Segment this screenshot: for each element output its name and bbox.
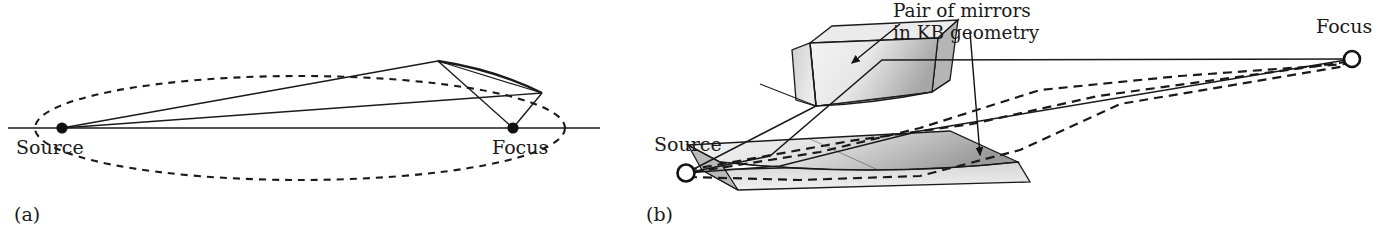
source-point-marker xyxy=(56,122,67,133)
panel-a-diagram xyxy=(0,0,620,247)
panel-a-source-label: Source xyxy=(16,137,84,158)
focus-point-marker xyxy=(507,122,518,133)
panel-b-source-label: Source xyxy=(654,134,722,155)
ray-middle xyxy=(62,93,542,128)
source-point-marker xyxy=(678,165,695,182)
upper-mirror-main-face xyxy=(810,38,938,106)
ray-middle-reflected xyxy=(513,93,542,128)
panel-a-tag: (a) xyxy=(14,203,40,225)
kb-annotation-line-2: in KB geometry xyxy=(893,22,1039,44)
ray-outer xyxy=(62,61,438,128)
panel-b-focus-label: Focus xyxy=(1316,16,1372,37)
panel-b-tag: (b) xyxy=(646,203,673,225)
surface-chord-inner xyxy=(438,61,542,93)
panel-a-focus-label: Focus xyxy=(492,137,548,158)
leader-arrow-lower-mirror xyxy=(970,32,980,155)
focus-point-marker xyxy=(1344,51,1360,67)
figure-container: Source Focus (a) xyxy=(0,0,1383,247)
kb-annotation-line-1: Pair of mirrors xyxy=(893,0,1039,22)
ray-outer-reflected xyxy=(438,61,513,128)
kb-mirror-annotation: Pair of mirrors in KB geometry xyxy=(893,0,1039,44)
